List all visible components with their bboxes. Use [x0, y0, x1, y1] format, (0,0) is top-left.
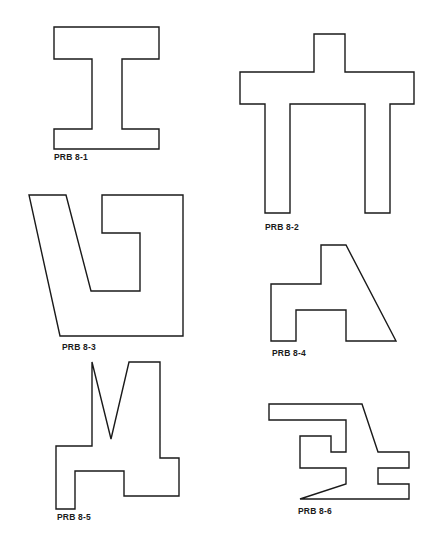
figure-8-2-pi-outline — [240, 34, 414, 213]
figure-label-8-4: PRB 8-4 — [272, 348, 306, 358]
figure-label-8-3: PRB 8-3 — [62, 342, 96, 352]
figure-label-8-6: PRB 8-6 — [298, 506, 332, 516]
figure-8-5-m-notch-outline — [56, 362, 179, 509]
figure-8-6-comb-outline — [269, 404, 409, 499]
figure-8-3-slanted-u-outline — [29, 195, 183, 336]
figure-label-8-2: PRB 8-2 — [265, 222, 299, 232]
figure-8-1-i-beam-outline — [54, 27, 159, 149]
figure-label-8-5: PRB 8-5 — [57, 512, 91, 522]
figure-sheet — [0, 0, 434, 542]
figure-8-4-stepped-trapezoid-outline — [271, 245, 396, 341]
figure-label-8-1: PRB 8-1 — [54, 152, 88, 162]
